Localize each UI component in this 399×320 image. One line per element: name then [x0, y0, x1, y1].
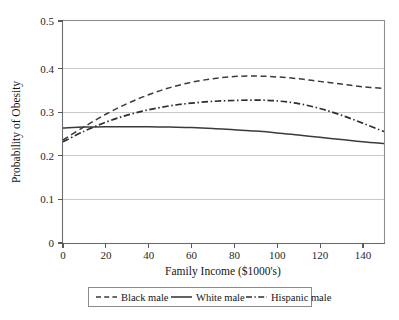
- y-tick-label-0: 0: [49, 237, 55, 249]
- legend-label-white-male: White male: [196, 292, 245, 303]
- y-tick-label-5: 0.5: [40, 15, 54, 27]
- x-tick-labels: 0 20 40 60 80 100 120 140: [60, 249, 372, 261]
- chart-canvas: 0 0.1 0.2 0.3 0.4 0.5 0 20 40 60 80 100: [0, 0, 399, 320]
- legend-label-hispanic-male: Hispanic male: [271, 292, 332, 303]
- x-axis-title: Family Income ($1000's): [165, 265, 281, 278]
- y-tick-label-3: 0.3: [40, 106, 54, 118]
- y-tick-labels: 0 0.1 0.2 0.3 0.4 0.5: [40, 15, 54, 249]
- plot-area-frame: [63, 21, 385, 244]
- x-tick-label-7: 140: [355, 249, 372, 261]
- y-axis-title: Probability of Obesity: [10, 81, 23, 183]
- x-tick-label-4: 80: [229, 249, 241, 261]
- x-tick-label-2: 40: [143, 249, 155, 261]
- x-tick-label-0: 0: [60, 249, 66, 261]
- legend-label-black-male: Black male: [121, 292, 169, 303]
- y-tick-label-1: 0.1: [40, 193, 54, 205]
- obesity-probability-figure: 0 0.1 0.2 0.3 0.4 0.5 0 20 40 60 80 100: [0, 0, 399, 320]
- x-tick-label-5: 100: [269, 249, 286, 261]
- legend: Black male White male Hispanic male: [89, 288, 332, 307]
- y-tick-label-2: 0.2: [40, 150, 54, 162]
- x-tick-label-1: 20: [100, 249, 112, 261]
- x-tick-label-6: 120: [312, 249, 329, 261]
- x-tick-label-3: 60: [186, 249, 198, 261]
- y-tick-label-4: 0.4: [40, 63, 54, 75]
